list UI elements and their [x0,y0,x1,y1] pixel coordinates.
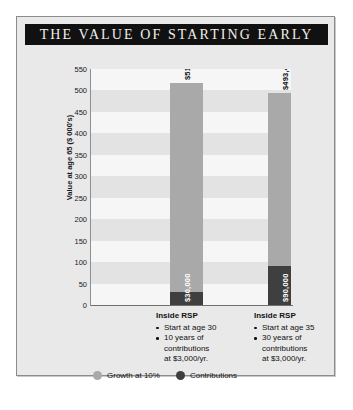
y-tick-label: 0 [53,301,87,310]
bar-total-label: $493,480 [281,69,290,90]
legend-label: Growth at 10% [107,371,160,380]
category-bullet: 10 years ofcontributionsat $3,000/yr. [156,333,252,365]
chart-card: THE VALUE OF STARTING EARLY Value at age… [16,16,335,376]
bullet-dot-icon [254,337,257,340]
bar-segment-growth [170,83,203,292]
category-bullet-list: Start at age 3530 years ofcontributionsa… [254,323,350,365]
y-tick-label: 150 [53,236,87,245]
y-tick-label: 450 [53,107,87,116]
category-block-1: Inside RSPStart at age 3010 years ofcont… [156,311,252,365]
bar-contribution-label: $30,000 [183,273,192,302]
bullet-dot-icon [156,327,159,330]
y-tick-label: 250 [53,193,87,202]
bullet-dot-icon [254,327,257,330]
category-bullet-cont: contributions [164,344,252,355]
category-bullet: Start at age 35 [254,323,350,334]
category-bullet-text: 30 years of [262,333,302,342]
y-tick-label: 350 [53,150,87,159]
legend-swatch-icon [176,371,185,380]
plot-area: $518,030$30,000$493,480$90,000 [91,69,291,305]
legend-item-2: Contributions [176,371,237,380]
bar-total-label: $518,030 [183,69,192,80]
y-tick-label: 300 [53,172,87,181]
page-title: THE VALUE OF STARTING EARLY [40,28,314,42]
x-axis-line [91,305,293,306]
legend-label: Contributions [190,371,237,380]
category-bullet-text: Start at age 35 [262,323,314,332]
category-title: Inside RSP [156,311,252,322]
legend-swatch-icon [93,371,102,380]
category-bullet-text: 10 years of [164,333,204,342]
category-bullet: Start at age 30 [156,323,252,334]
y-tick-label: 50 [53,279,87,288]
category-bullet-cont: contributions [262,344,350,355]
y-tick-label: 400 [53,129,87,138]
category-title: Inside RSP [254,311,350,322]
y-axis-ticks: 050100150200250300350400450500550 [49,69,87,305]
category-bullet-list: Start at age 3010 years ofcontributionsa… [156,323,252,365]
y-tick-label: 550 [53,65,87,74]
category-bullet: 30 years ofcontributionsat $3,000/yr. [254,333,350,365]
chart-legend: Growth at 10%Contributions [93,371,237,380]
category-bullet-rate: at $3,000/yr. [262,354,350,365]
bar-segment-growth [268,93,291,266]
y-tick-label: 200 [53,215,87,224]
bar-1 [170,83,203,305]
y-tick-label: 500 [53,86,87,95]
legend-item-1: Growth at 10% [93,371,160,380]
y-tick-label: 100 [53,258,87,267]
title-banner: THE VALUE OF STARTING EARLY [25,24,328,45]
chart-area: Value at age 65 ($ 000's) 05010015020025… [25,49,328,371]
category-block-2: Inside RSPStart at age 3530 years ofcont… [254,311,350,365]
bar-contribution-label: $90,000 [281,273,290,302]
category-bullet-text: Start at age 30 [164,323,216,332]
category-bullet-rate: at $3,000/yr. [164,354,252,365]
bullet-dot-icon [156,337,159,340]
